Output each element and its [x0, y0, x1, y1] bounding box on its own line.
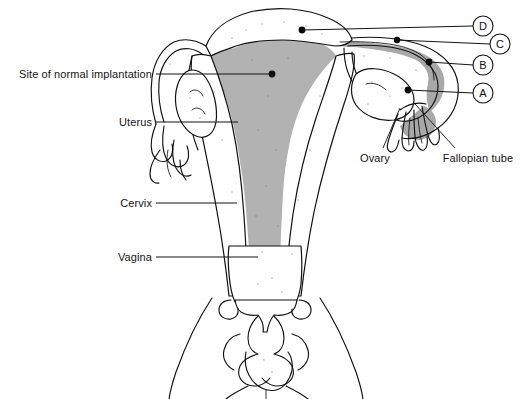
- label-fallopian-tube: Fallopian tube: [443, 152, 514, 164]
- cervix-vagina-group: [219, 246, 311, 332]
- footer-caption-clipped: [0, 387, 528, 399]
- label-vagina: Vagina: [118, 251, 153, 263]
- label-implantation: Site of normal implantation: [19, 68, 152, 80]
- marker-letter-c: C: [496, 38, 504, 50]
- label-cervix: Cervix: [120, 197, 152, 209]
- label-ovary: Ovary: [360, 152, 390, 164]
- cervix-outline: [228, 246, 302, 302]
- diagram-canvas: Site of normal implantationUterusCervixV…: [0, 0, 528, 399]
- marker-letter-d: D: [479, 20, 487, 32]
- reproductive-tract-illustration: Site of normal implantationUterusCervixV…: [0, 0, 528, 399]
- marker-letter-b: B: [479, 59, 486, 71]
- marker-letter-a: A: [479, 87, 487, 99]
- label-uterus: Uterus: [119, 116, 152, 128]
